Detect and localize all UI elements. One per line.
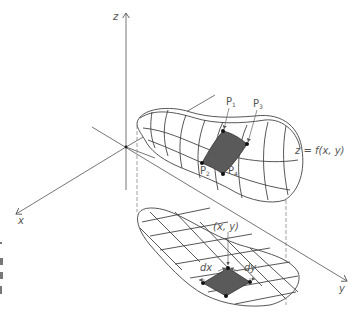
x-axis: [16, 147, 126, 214]
point-label-p4: P4: [228, 166, 238, 177]
point-label-p2: P2: [200, 166, 210, 177]
z-axis-label: z: [113, 12, 118, 22]
point-label-p3: P3: [253, 99, 263, 110]
x-axis-label: x: [18, 216, 24, 226]
dy-label: dy: [244, 263, 256, 273]
surface-equation-label: z = f(x, y): [295, 146, 345, 156]
margin-text-fragment: [0, 258, 3, 265]
diagram-drawing: [0, 0, 358, 315]
y-axis-label: y: [339, 284, 345, 294]
diagram-canvas: z x y P1 P3 P2 P4 z = f(x, y) (x, y) dx …: [0, 0, 358, 315]
margin-text-fragment: [0, 272, 3, 279]
dx-label: dx: [200, 263, 212, 273]
point-label-p1: P1: [226, 97, 236, 108]
origin-point: [125, 146, 128, 149]
margin-text-fragment: [0, 286, 2, 294]
margin-text-fragment: [0, 242, 2, 244]
domain-point-label: (x, y): [213, 222, 239, 232]
